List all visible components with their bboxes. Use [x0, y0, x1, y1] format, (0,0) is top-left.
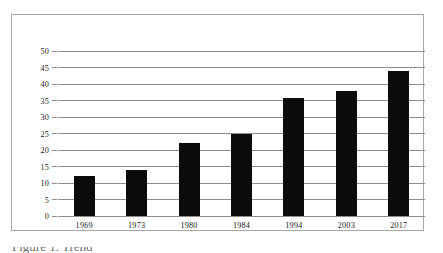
bar — [126, 170, 147, 216]
y-axis-tick — [52, 216, 57, 217]
figure-caption-text: Figure 1. Trend — [12, 247, 202, 253]
y-axis-tick-label: 15 — [41, 162, 49, 171]
y-axis-tick — [52, 199, 57, 200]
figure-caption: Figure 1. Trend — [12, 247, 202, 253]
bar — [283, 98, 304, 216]
x-axis-tick-label: 1969 — [76, 221, 93, 230]
y-axis-tick — [52, 51, 57, 52]
bar — [74, 176, 95, 216]
y-axis-tick — [52, 133, 57, 134]
bar — [179, 143, 200, 216]
x-axis-tick-label: 1984 — [233, 221, 250, 230]
y-axis-tick — [52, 100, 57, 101]
x-axis-tick-label: 2017 — [390, 221, 407, 230]
y-axis-tick-label: 10 — [41, 179, 49, 188]
plot-area: 05101520253035404550 — [58, 51, 425, 216]
y-axis-tick-label: 20 — [41, 146, 49, 155]
y-axis-tick-label: 35 — [41, 96, 49, 105]
y-axis-tick — [52, 183, 57, 184]
y-axis-tick — [52, 166, 57, 167]
y-axis-tick-label: 50 — [41, 47, 49, 56]
y-axis-tick-label: 0 — [45, 212, 49, 221]
y-axis-tick-label: 45 — [41, 63, 49, 72]
x-axis-tick-label: 1994 — [285, 221, 302, 230]
x-axis-tick-label: 1973 — [128, 221, 145, 230]
y-axis-tick — [52, 117, 57, 118]
y-axis-tick-label: 30 — [41, 113, 49, 122]
y-axis-tick — [52, 84, 57, 85]
bar — [388, 71, 409, 216]
y-axis-tick — [52, 150, 57, 151]
x-axis-tick-label: 2003 — [338, 221, 355, 230]
x-axis-labels: 1969197319801984199420032017 — [58, 218, 425, 234]
y-axis-tick-label: 25 — [41, 129, 49, 138]
x-axis-tick-label: 1980 — [180, 221, 197, 230]
y-axis-tick-label: 5 — [45, 195, 49, 204]
bars-layer — [58, 51, 425, 216]
figure-frame: 05101520253035404550 1969197319801984199… — [11, 14, 424, 231]
bar — [231, 134, 252, 216]
bar — [336, 91, 357, 216]
y-axis-tick-label: 40 — [41, 80, 49, 89]
y-axis-tick — [52, 67, 57, 68]
